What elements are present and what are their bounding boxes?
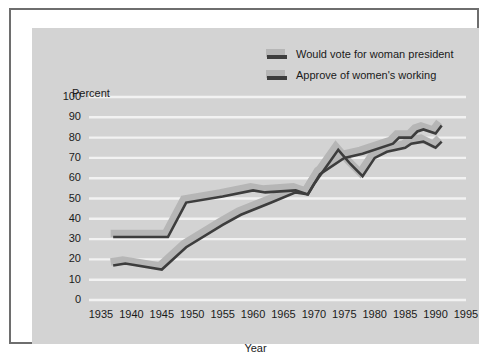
y-axis-tick-label: 0 bbox=[49, 294, 81, 305]
x-axis-tick-label: 1950 bbox=[175, 309, 209, 320]
y-axis-tick-label: 100 bbox=[49, 91, 81, 102]
legend-swatch-icon bbox=[266, 70, 287, 81]
x-axis-tick-label: 1990 bbox=[419, 309, 453, 320]
legend-item-label: Approve of women's working bbox=[296, 69, 436, 81]
x-axis-tick-label: 1955 bbox=[206, 309, 240, 320]
x-axis-tick-label: 1975 bbox=[327, 309, 361, 320]
y-axis-tick-label: 20 bbox=[49, 253, 81, 264]
y-axis-tick-label: 60 bbox=[49, 172, 81, 183]
y-axis-tick-label: 10 bbox=[49, 274, 81, 285]
x-axis-tick-label: 1970 bbox=[297, 309, 331, 320]
legend-item-label: Would vote for woman president bbox=[296, 48, 454, 60]
figure-frame: Percent Year 0102030405060708090100 1935… bbox=[9, 8, 479, 344]
x-axis-tick-label: 1980 bbox=[358, 309, 392, 320]
x-axis-tick-label: 1935 bbox=[84, 309, 118, 320]
x-axis-tick-label: 1960 bbox=[236, 309, 270, 320]
y-axis-tick-label: 40 bbox=[49, 213, 81, 224]
y-axis-tick-label: 90 bbox=[49, 111, 81, 122]
legend-swatch-icon bbox=[266, 49, 287, 60]
y-axis-tick-label: 70 bbox=[49, 152, 81, 163]
chart-figure: Percent Year 0102030405060708090100 1935… bbox=[0, 0, 489, 356]
x-axis-tick-label: 1985 bbox=[388, 309, 422, 320]
y-axis-tick-label: 50 bbox=[49, 193, 81, 204]
x-axis-tick-label: 1995 bbox=[449, 309, 483, 320]
x-axis-title: Year bbox=[32, 342, 479, 354]
x-axis-tick-label: 1965 bbox=[267, 309, 301, 320]
y-axis-tick-label: 30 bbox=[49, 233, 81, 244]
legend-item-would-vote: Would vote for woman president bbox=[266, 45, 476, 63]
x-axis-tick-label: 1945 bbox=[145, 309, 179, 320]
chart-legend: Would vote for woman president Approve o… bbox=[266, 45, 476, 87]
legend-item-approve-working: Approve of women's working bbox=[266, 66, 476, 84]
x-axis-tick-label: 1940 bbox=[114, 309, 148, 320]
plot-panel: Percent Year 0102030405060708090100 1935… bbox=[32, 28, 479, 344]
y-axis-tick-label: 80 bbox=[49, 132, 81, 143]
